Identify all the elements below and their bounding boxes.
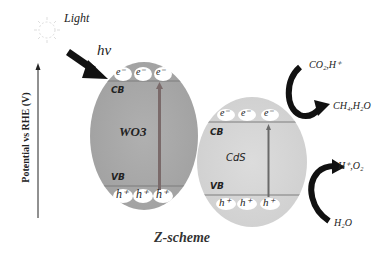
photon-label: hv — [97, 42, 111, 59]
cds-name: CdS — [226, 152, 246, 163]
cds-hole: h⁺ — [219, 196, 231, 209]
wo3-hole: h⁺ — [116, 187, 128, 202]
axis-label: Potential vs RHE (V) — [20, 83, 31, 193]
cds-vb-label: VB — [210, 181, 224, 191]
reduction-products: CH₄,H₂O — [333, 100, 371, 111]
caption: Z-scheme — [154, 230, 210, 246]
wo3-cb-label: CB — [111, 85, 124, 95]
sun-icon — [34, 17, 60, 43]
cds-electron: e⁻ — [220, 107, 229, 118]
wo3-vb-label: VB — [111, 172, 125, 182]
wo3-electron: e⁻ — [116, 66, 125, 77]
wo3-electron: e⁻ — [156, 66, 165, 77]
cds-electron: e⁻ — [241, 107, 250, 118]
oxidation-products: H⁺,O₂ — [338, 160, 363, 171]
light-label: Light — [64, 11, 89, 26]
wo3-electron: e⁻ — [136, 66, 145, 77]
wo3-hole: h⁺ — [156, 187, 168, 202]
oxidation-reactant: H₂O — [334, 217, 352, 228]
wo3-name: WO3 — [119, 124, 146, 140]
cds-hole: h⁺ — [263, 196, 275, 209]
cds-hole: h⁺ — [240, 196, 252, 209]
cds-cb-label: CB — [210, 127, 223, 137]
cds-band — [197, 97, 307, 227]
reduction-arrow-icon — [289, 67, 330, 116]
wo3-hole: h⁺ — [136, 187, 148, 202]
potential-axis — [36, 63, 41, 218]
cds-electron: e⁻ — [264, 107, 273, 118]
reduction-reactants: CO₂,H⁺ — [309, 59, 341, 70]
